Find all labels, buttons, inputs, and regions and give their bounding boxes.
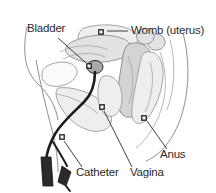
leader-marker-bladder xyxy=(87,64,91,68)
vaginal-canal-tissue xyxy=(98,76,122,117)
catheter-branch-tube xyxy=(53,142,67,166)
anatomical-diagram: Bladder Womb (uterus) Anus Vagina Cathet… xyxy=(0,0,216,193)
label-catheter: Catheter xyxy=(76,166,119,178)
label-anus: Anus xyxy=(160,148,186,160)
drainage-tip xyxy=(66,186,70,191)
leader-line-catheter xyxy=(64,141,82,167)
label-vagina: Vagina xyxy=(130,166,165,178)
label-bladder: Bladder xyxy=(27,22,66,34)
leader-marker-womb xyxy=(99,30,103,34)
leader-line-anus xyxy=(147,121,167,149)
bowel-loop-tissue xyxy=(65,35,130,62)
sacrum-outline xyxy=(167,40,174,110)
pubic-bone xyxy=(42,62,77,86)
drainage-connector-main xyxy=(41,157,53,186)
diagram-canvas: Bladder Womb (uterus) Anus Vagina Cathet… xyxy=(0,0,216,193)
leader-line-vagina xyxy=(104,111,132,167)
label-womb: Womb (uterus) xyxy=(131,24,205,36)
leader-marker-vagina xyxy=(100,105,104,109)
leader-marker-anus xyxy=(142,116,146,120)
drainage-connector-branch xyxy=(58,166,71,186)
leader-marker-catheter xyxy=(60,135,64,139)
